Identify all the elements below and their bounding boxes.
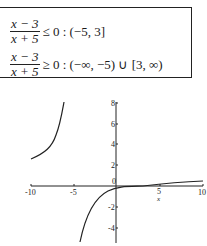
x-tick-label: 0 xyxy=(112,177,116,186)
y-tick-label: 8 xyxy=(111,99,115,108)
solution-text: ≥ 0 : (−∞, −5) ∪ [3, ∞) xyxy=(43,57,163,73)
inequality-le: x − 3 x + 5 ≤ 0 : (−5, 3] xyxy=(10,17,105,46)
numerator: x − 3 xyxy=(10,17,40,31)
y-tick-label: -2 xyxy=(108,203,115,212)
denominator: x + 5 xyxy=(10,32,40,46)
fraction: x − 3 x + 5 xyxy=(10,17,40,46)
y-tick-label: 6 xyxy=(111,120,115,129)
function-plot: -10 -5 0 5 10 x 8 6 4 2 -2 -4 xyxy=(0,95,207,246)
solution-text: ≤ 0 : (−5, 3] xyxy=(43,24,106,40)
y-tick-label: 4 xyxy=(111,140,115,149)
x-axis-label: x xyxy=(156,195,161,203)
x-tick-label: 10 xyxy=(198,188,206,197)
curve-left-branch xyxy=(31,102,64,159)
y-tick-label: -4 xyxy=(108,224,115,233)
fraction: x − 3 x + 5 xyxy=(10,50,40,79)
y-tick-label: 2 xyxy=(111,161,115,170)
solution-box: x − 3 x + 5 ≤ 0 : (−5, 3] x − 3 x + 5 ≥ … xyxy=(0,7,192,78)
inequality-ge: x − 3 x + 5 ≥ 0 : (−∞, −5) ∪ [3, ∞) xyxy=(10,50,163,79)
numerator: x − 3 xyxy=(10,50,40,64)
denominator: x + 5 xyxy=(10,65,40,79)
x-tick-label: -5 xyxy=(70,188,77,197)
x-tick-label: -10 xyxy=(25,188,36,197)
curve-right-branch xyxy=(80,181,203,242)
